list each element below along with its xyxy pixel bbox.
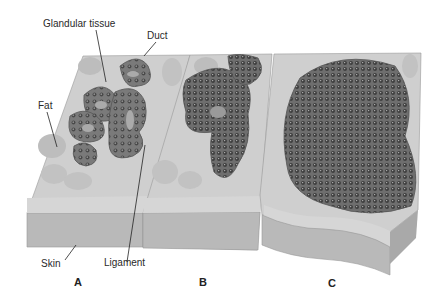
panel-label-a: A — [74, 277, 82, 288]
panel-c-block — [260, 53, 421, 275]
label-glandular-tissue: Glandular tissue — [43, 19, 115, 29]
panel-label-b: B — [199, 277, 207, 288]
label-ligament: Ligament — [104, 258, 145, 268]
breast-tissue-illustration — [0, 0, 447, 304]
panel-label-c: C — [328, 278, 336, 289]
label-fat: Fat — [38, 101, 52, 111]
label-duct: Duct — [147, 31, 168, 41]
label-skin: Skin — [41, 259, 60, 269]
